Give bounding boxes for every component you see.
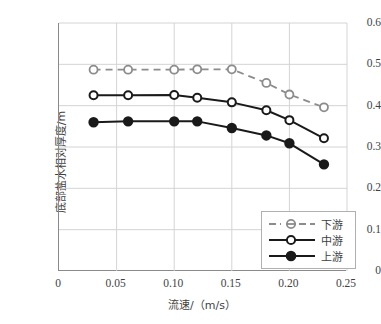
data-point-marker	[320, 160, 328, 168]
data-point-marker	[228, 98, 236, 106]
data-point-marker	[193, 94, 201, 102]
series-line	[94, 69, 324, 107]
x-axis-title: 流速/（m/s）	[58, 296, 346, 312]
data-point-marker	[170, 66, 178, 74]
data-point-marker	[193, 117, 201, 125]
legend: 下游 中游 上游	[261, 211, 356, 269]
data-point-marker	[193, 65, 201, 73]
data-point-marker	[170, 117, 178, 125]
x-axis-tick-label: 0.10	[163, 278, 183, 290]
legend-item-upstream: 上游	[267, 248, 350, 264]
data-point-marker	[124, 66, 132, 74]
data-point-marker	[228, 124, 236, 132]
legend-swatch-midstream	[267, 232, 317, 248]
data-point-marker	[89, 118, 97, 126]
x-axis-tick-label: 0.25	[336, 278, 356, 290]
x-axis-tick-label: 0.20	[278, 278, 298, 290]
data-point-marker	[124, 91, 132, 99]
data-point-marker	[262, 131, 270, 139]
chart-container: 底部盐水相对厚度/m 00.10.20.30.40.50.6 00.050.10…	[0, 0, 381, 324]
x-axis-tick-label: 0	[55, 278, 61, 290]
data-point-marker	[90, 66, 98, 74]
data-point-marker	[285, 139, 293, 147]
data-point-marker	[320, 103, 328, 111]
data-point-marker	[170, 91, 178, 99]
x-axis-tick-label: 0.05	[106, 278, 126, 290]
legend-swatch-upstream	[267, 248, 317, 264]
legend-swatch-downstream	[267, 216, 317, 232]
legend-label-downstream: 下游	[317, 216, 343, 232]
legend-label-midstream: 中游	[317, 232, 343, 248]
data-point-marker	[228, 65, 236, 73]
data-point-marker	[90, 91, 98, 99]
data-point-marker	[262, 106, 270, 114]
legend-label-upstream: 上游	[317, 248, 343, 264]
data-point-marker	[285, 116, 293, 124]
data-point-marker	[285, 91, 293, 99]
legend-item-downstream: 下游	[267, 216, 350, 232]
data-point-marker	[124, 117, 132, 125]
data-point-marker	[262, 79, 270, 87]
data-point-marker	[320, 134, 328, 142]
legend-item-midstream: 中游	[267, 232, 350, 248]
x-axis-tick-label: 0.15	[221, 278, 241, 290]
